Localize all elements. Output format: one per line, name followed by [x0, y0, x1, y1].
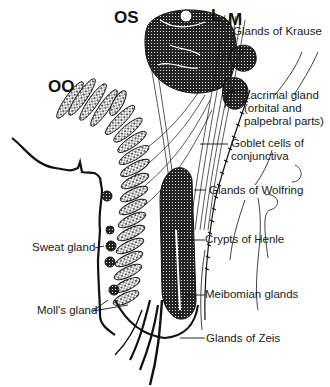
label-lacrimal-line3: palpebral parts) — [244, 115, 324, 128]
label-oo: OO — [48, 78, 74, 95]
label-os: OS — [114, 9, 139, 26]
label-lacrimal-line2: (orbital and — [244, 102, 302, 115]
label-glands-of-zeis: Glands of Zeis — [206, 332, 280, 345]
label-molls-gland: Moll's gland — [37, 304, 97, 317]
label-l: L — [211, 7, 221, 24]
label-glands-of-wolfring: Glands of Wolfring — [209, 184, 303, 197]
label-goblet-line1: Goblet cells of — [231, 137, 304, 150]
label-lacrimal-line1: Lacrimal gland — [244, 89, 319, 102]
label-crypts-of-henle: Crypts of Henle — [205, 233, 284, 246]
label-glands-of-krause: Glands of Krause — [233, 25, 322, 38]
label-sweat-gland: Sweat gland — [32, 241, 95, 254]
label-goblet-line2: conjunctiva — [231, 150, 289, 163]
label-meibomian-glands: Meibomian glands — [205, 288, 298, 301]
meibomian-gland-column — [160, 168, 196, 319]
